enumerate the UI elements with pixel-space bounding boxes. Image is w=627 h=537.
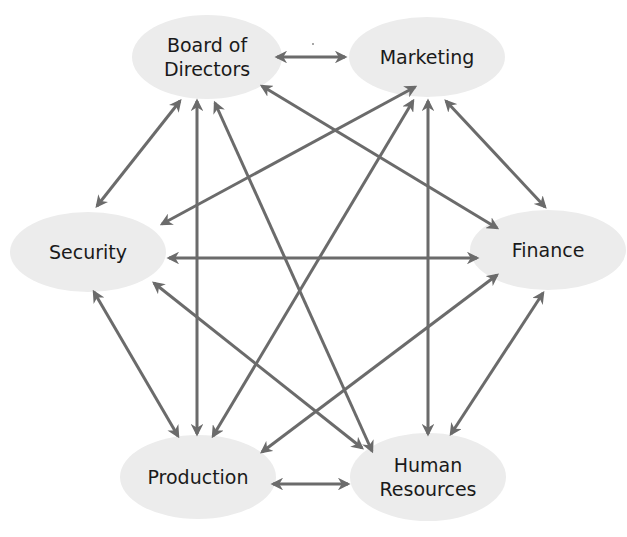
edge-finance-hr-double-arrow-icon	[451, 293, 543, 434]
node-label: Security	[49, 241, 127, 263]
node-ellipse	[350, 433, 506, 521]
node-board: Board ofDirectors	[132, 15, 282, 99]
stray-dot	[312, 43, 314, 45]
organization-network-diagram: Board ofDirectorsMarketingSecurityFinanc…	[0, 0, 627, 537]
node-label: Human	[394, 454, 463, 476]
edge-security-production-double-arrow-icon	[94, 292, 178, 436]
node-label: Resources	[379, 478, 476, 500]
edges-layer	[94, 57, 545, 484]
node-label: Directors	[164, 58, 250, 80]
node-label: Board of	[167, 34, 249, 56]
edge-finance-production-double-arrow-icon	[262, 275, 497, 452]
node-label: Marketing	[380, 46, 475, 68]
nodes-layer: Board ofDirectorsMarketingSecurityFinanc…	[10, 15, 626, 521]
node-production: Production	[120, 435, 276, 519]
edge-security-hr-double-arrow-icon	[154, 283, 362, 448]
node-hr: HumanResources	[350, 433, 506, 521]
node-security: Security	[10, 212, 166, 292]
node-marketing: Marketing	[349, 17, 505, 97]
edge-board-security-double-arrow-icon	[97, 101, 180, 206]
edge-marketing-production-double-arrow-icon	[213, 101, 413, 436]
edge-board-hr-double-arrow-icon	[215, 103, 372, 451]
edge-marketing-finance-double-arrow-icon	[446, 101, 545, 207]
node-ellipse	[132, 15, 282, 99]
node-label: Production	[147, 466, 248, 488]
node-label: Finance	[512, 239, 585, 261]
